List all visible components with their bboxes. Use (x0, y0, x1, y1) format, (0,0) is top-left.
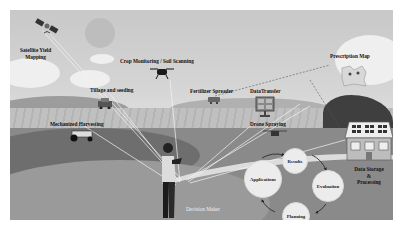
cycle-node-results: Results (282, 148, 308, 174)
cycle-node-applications: Applications (244, 160, 282, 198)
cycle-node-evaluation: Evaluation (312, 170, 344, 202)
diagram-canvas: Satellite Yield Mapping Crop Monitoring … (10, 10, 393, 220)
